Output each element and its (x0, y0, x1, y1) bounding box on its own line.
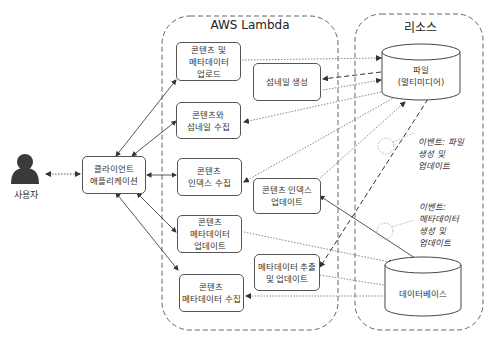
lambda-thumbnail-node[interactable]: 섬네일 생성 (253, 63, 321, 101)
database-cylinder-icon (385, 257, 461, 316)
lambda-get-metadata-node[interactable]: 콘텐츠 메타데이터 수집 (179, 274, 244, 312)
lambda-get-index-node[interactable]: 콘텐츠 인덱스 수집 (177, 158, 242, 196)
file-event-marker (378, 138, 394, 154)
files-resource-label: 파일 (멀티미디어) (382, 64, 460, 88)
lambda-extract-metadata-node[interactable]: 메타데이터 추출 및 업데이트 (254, 254, 320, 291)
database-resource-label: 데이터베이스 (385, 288, 461, 300)
resources-group-title: 리소스 (380, 18, 460, 35)
lambda-update-index-node[interactable]: 콘텐츠 인덱스 업데이트 (253, 178, 321, 214)
user-icon (11, 154, 39, 184)
metadata-event-marker (377, 223, 393, 239)
architecture-diagram: AWS Lambda 리소스 사용자 클라이언트 애플리케이션 콘텐츠 및 메타… (0, 0, 494, 340)
user-label: 사용자 (6, 189, 46, 201)
client-application-node[interactable]: 클라이언트 애플리케이션 (82, 156, 146, 194)
lambda-update-metadata-node[interactable]: 콘텐츠 메타데이터 업데이트 (177, 215, 242, 253)
metadata-event-label: 이벤트: 메타데이터 생성 및 업데이트 (419, 201, 493, 249)
lambda-upload-node[interactable]: 콘텐츠 및 메타데이터 업로드 (176, 42, 241, 81)
lambda-group-title: AWS Lambda (205, 18, 295, 32)
lambda-get-content-thumbnail-node[interactable]: 콘텐츠와 섬네일 수집 (176, 102, 241, 139)
file-event-label: 이벤트: 파일 생성 및 업데이트 (418, 136, 492, 172)
